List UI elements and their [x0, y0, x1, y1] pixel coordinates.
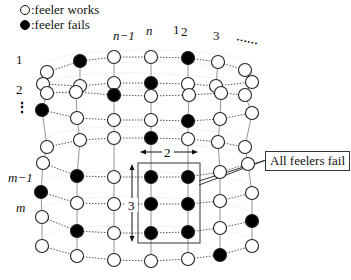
feeler-grid-diagram: 2 3 …… ⋮ :feeler works :feeler fails n−1… [0, 0, 351, 280]
legend: :feeler works :feeler fails [20, 2, 99, 32]
column-label: 2 [181, 24, 188, 40]
row-label: m [16, 200, 25, 216]
column-label: n−1 [113, 28, 135, 44]
working-feeler-node [71, 250, 84, 263]
failed-feeler-node [246, 215, 259, 228]
working-feeler-node [246, 107, 259, 120]
working-feeler-node [108, 114, 121, 127]
legend-works: :feeler works [20, 2, 99, 17]
height-label: 3 [128, 198, 135, 213]
working-feeler-node [246, 76, 259, 89]
callout-pointer [199, 160, 266, 185]
failed-feeler-node [182, 115, 195, 128]
working-feeler-node [37, 157, 50, 170]
working-feeler-node [108, 227, 121, 240]
legend-fails: :feeler fails [20, 17, 99, 32]
arrow-head-up [130, 164, 135, 170]
working-feeler-node [214, 222, 227, 235]
all-feelers-fail-callout: All feelers fail [265, 151, 350, 171]
working-feeler-node [145, 51, 158, 64]
failed-feeler-node [145, 227, 158, 240]
failed-feeler-node [182, 226, 195, 239]
working-feeler-node [239, 64, 252, 77]
failed-feeler-node [35, 186, 48, 199]
legend-works-label: :feeler works [31, 2, 99, 17]
working-feeler-node [71, 197, 84, 210]
failed-feeler-node [36, 104, 49, 117]
working-feeler-node [246, 187, 259, 200]
legend-fails-label: :feeler fails [31, 17, 90, 32]
working-feeler-node [212, 56, 225, 69]
working-feeler-node [74, 134, 87, 147]
working-feeler-node [212, 136, 225, 149]
arrow-head-left [140, 150, 146, 155]
working-feeler-node [70, 86, 83, 99]
failed-feeler-node [182, 198, 195, 211]
working-feeler-node [36, 240, 49, 253]
working-feeler-node [108, 171, 121, 184]
working-feeler-node [108, 198, 121, 211]
open-circle-icon [20, 5, 30, 15]
failed-feeler-node [108, 89, 121, 102]
working-feeler-node [145, 114, 158, 127]
working-feeler-node [71, 112, 84, 125]
working-feeler-node [41, 141, 54, 154]
working-feeler-node [108, 51, 121, 64]
working-feeler-node [214, 166, 227, 179]
row-label: 2 [16, 82, 23, 98]
failed-feeler-node [182, 171, 195, 184]
working-feeler-node [41, 87, 54, 100]
feeler-nodes [35, 51, 259, 268]
working-feeler-node [108, 132, 121, 145]
cylinder-grid: 2 3 …… ⋮ [0, 0, 351, 280]
column-label: n [146, 23, 153, 39]
width-label: 2 [164, 145, 171, 160]
failed-feeler-node [74, 55, 87, 68]
working-feeler-node [242, 158, 255, 171]
column-label: 3 [213, 28, 220, 44]
arrow-head-right [192, 150, 198, 155]
failed-feeler-node [145, 171, 158, 184]
failed-feeler-node [71, 225, 84, 238]
filled-circle-icon [20, 20, 30, 30]
column-label: 1 [173, 22, 180, 38]
working-feeler-node [215, 87, 228, 100]
working-feeler-node [108, 77, 121, 90]
top-ellipsis: …… [236, 30, 260, 46]
failed-feeler-node [145, 198, 158, 211]
row-label: m−1 [8, 170, 33, 186]
working-feeler-node [239, 89, 252, 102]
working-feeler-node [239, 141, 252, 154]
left-ellipsis: ⋮ [15, 100, 29, 115]
failed-feeler-node [145, 77, 158, 90]
working-feeler-node [183, 89, 196, 102]
working-feeler-node [145, 90, 158, 103]
working-feeler-node [214, 195, 227, 208]
arrow-head-down [130, 236, 135, 242]
failed-feeler-node [182, 52, 195, 65]
row-label: 1 [16, 52, 23, 68]
working-feeler-node [182, 253, 195, 266]
working-feeler-node [108, 254, 121, 267]
failed-feeler-node [214, 249, 227, 262]
working-feeler-node [36, 211, 49, 224]
working-feeler-node [246, 240, 259, 253]
working-feeler-node [145, 255, 158, 268]
working-feeler-node [214, 113, 227, 126]
working-feeler-node [41, 66, 54, 79]
working-feeler-node [182, 133, 195, 146]
failed-feeler-node [71, 170, 84, 183]
failed-feeler-node [145, 132, 158, 145]
